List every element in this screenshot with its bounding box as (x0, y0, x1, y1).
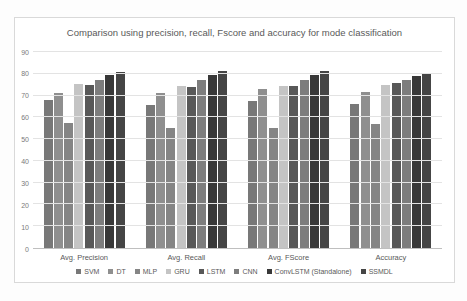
gridline (33, 182, 442, 183)
bar-lstm (85, 85, 94, 248)
y-tick-label: 40 (15, 157, 29, 166)
gridline (33, 116, 442, 117)
y-tick-label: 30 (15, 179, 29, 188)
category-label: Avg. FScore (238, 253, 340, 262)
y-axis-labels: 0102030405060708090 (15, 52, 29, 249)
gridline (33, 203, 442, 204)
y-tick-label: 60 (15, 113, 29, 122)
category-label: Avg. Recall (135, 253, 237, 262)
x-axis-labels: Avg. PrecisionAvg. RecallAvg. FScoreAccu… (33, 253, 442, 262)
bar-group (340, 52, 442, 248)
bar-cnn (402, 80, 411, 248)
y-tick-label: 50 (15, 135, 29, 144)
bar-gru (177, 86, 186, 248)
legend-item: CNN (234, 268, 257, 275)
bar-gru (381, 85, 390, 248)
gridline (33, 225, 442, 226)
legend-item: ConvLSTM (Standalone) (267, 268, 352, 275)
legend-marker-icon (267, 269, 272, 274)
bar-group (238, 52, 340, 248)
legend-marker-icon (199, 269, 204, 274)
legend-label: GRU (174, 268, 190, 275)
legend-item: SSMDL (361, 268, 393, 275)
bar-lstm (392, 83, 401, 249)
legend-label: SVM (84, 268, 99, 275)
gridline (33, 51, 442, 52)
y-tick-label: 0 (15, 245, 29, 254)
gridline (33, 95, 442, 96)
y-tick-label: 20 (15, 201, 29, 210)
bar-svm (146, 105, 155, 248)
y-tick-label: 70 (15, 91, 29, 100)
legend-label: CNN (242, 268, 257, 275)
y-tick-label: 80 (15, 69, 29, 78)
bar-group (33, 52, 135, 248)
y-tick-label: 90 (15, 48, 29, 57)
legend-label: SSMDL (369, 268, 393, 275)
bar-convlstm-standalone- (310, 75, 319, 248)
legend-marker-icon (108, 269, 113, 274)
bar-svm (350, 104, 359, 248)
bar-cnn (300, 80, 309, 248)
legend-item: MLP (135, 268, 157, 275)
gridline (33, 160, 442, 161)
legend: SVMDTMLPGRULSTMCNNConvLSTM (Standalone)S… (15, 268, 454, 275)
legend-marker-icon (135, 269, 140, 274)
bar-groups (33, 52, 442, 248)
legend-item: DT (108, 268, 125, 275)
legend-label: DT (116, 268, 125, 275)
legend-marker-icon (361, 269, 366, 274)
bar-lstm (289, 86, 298, 248)
bar-convlstm-standalone- (208, 75, 217, 248)
bar-mlp (64, 123, 73, 248)
gridline (33, 73, 442, 74)
bar-mlp (166, 128, 175, 248)
legend-label: ConvLSTM (Standalone) (275, 268, 352, 275)
chart-title: Comparison using precision, recall, Fsco… (15, 27, 454, 38)
plot-area (33, 52, 442, 249)
bar-cnn (95, 80, 104, 248)
legend-item: GRU (166, 268, 190, 275)
category-label: Avg. Precision (33, 253, 135, 262)
legend-label: LSTM (207, 268, 226, 275)
bar-gru (74, 84, 83, 248)
category-label: Accuracy (340, 253, 442, 262)
legend-marker-icon (166, 269, 171, 274)
bar-lstm (187, 87, 196, 248)
bar-cnn (197, 80, 206, 248)
bar-group (135, 52, 237, 248)
legend-label: MLP (143, 268, 157, 275)
bar-convlstm-standalone- (412, 76, 421, 248)
legend-item: SVM (76, 268, 99, 275)
chart-figure: Comparison using precision, recall, Fsco… (14, 17, 455, 283)
bar-mlp (269, 128, 278, 248)
y-tick-label: 10 (15, 223, 29, 232)
legend-item: LSTM (199, 268, 226, 275)
legend-marker-icon (234, 269, 239, 274)
bar-mlp (371, 124, 380, 248)
legend-marker-icon (76, 269, 81, 274)
bar-gru (279, 86, 288, 248)
bar-dt (258, 89, 267, 248)
gridline (33, 138, 442, 139)
bar-convlstm-standalone- (105, 75, 114, 248)
